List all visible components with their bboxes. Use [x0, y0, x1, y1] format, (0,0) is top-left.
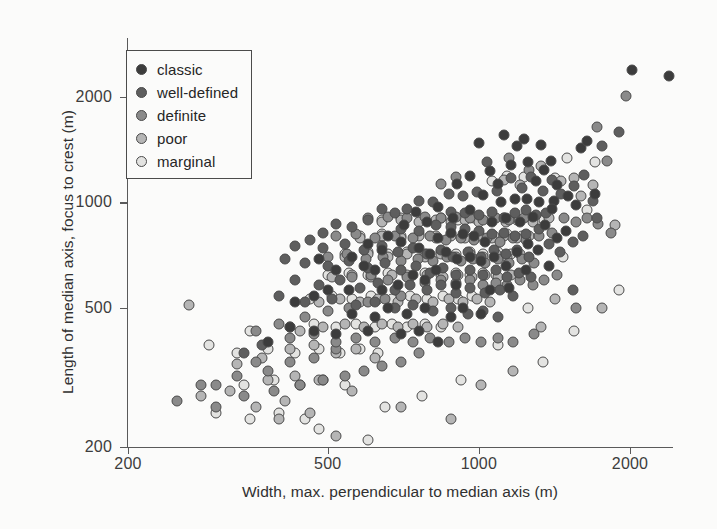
data-point-well-defined — [389, 302, 400, 313]
data-point-definite — [366, 270, 377, 281]
legend-item-definite[interactable]: definite — [127, 104, 251, 127]
data-point-definite — [492, 332, 503, 343]
data-point-definite — [309, 329, 320, 340]
data-point-definite — [502, 280, 513, 291]
data-point-well-defined — [448, 251, 459, 262]
data-point-poor — [486, 233, 497, 244]
data-point-marginal — [419, 267, 430, 278]
legend-item-well-defined[interactable]: well-defined — [127, 81, 251, 104]
data-point-poor — [392, 296, 403, 307]
data-point-classic — [515, 216, 526, 227]
data-point-classic — [464, 170, 475, 181]
data-point-classic — [441, 247, 452, 258]
data-point-well-defined — [362, 215, 373, 226]
data-point-definite — [455, 233, 466, 244]
data-point-well-defined — [613, 126, 624, 137]
legend-box: classicwell-defineddefinitepoormarginal — [126, 50, 252, 179]
data-point-poor — [232, 359, 243, 370]
data-point-poor — [511, 233, 522, 244]
data-point-marginal — [343, 267, 354, 278]
data-point-marginal — [373, 348, 384, 359]
data-point-well-defined — [478, 305, 489, 316]
data-point-poor — [274, 414, 285, 425]
data-point-definite — [262, 365, 273, 376]
data-point-well-defined — [492, 312, 503, 323]
legend-item-classic[interactable]: classic — [127, 58, 251, 81]
data-point-definite — [339, 370, 350, 381]
data-point-well-defined — [335, 275, 346, 286]
data-point-poor — [331, 431, 342, 442]
data-point-poor — [419, 251, 430, 262]
data-point-well-defined — [509, 208, 520, 219]
data-point-marginal — [464, 270, 475, 281]
data-point-definite — [435, 178, 446, 189]
data-point-well-defined — [554, 247, 565, 258]
data-point-marginal — [294, 380, 305, 391]
data-point-poor — [351, 344, 362, 355]
legend-item-marginal[interactable]: marginal — [127, 150, 251, 173]
data-point-poor — [408, 318, 419, 329]
data-point-classic — [527, 211, 538, 222]
data-point-well-defined — [577, 231, 588, 242]
data-point-classic — [469, 231, 480, 242]
data-point-definite — [480, 258, 491, 269]
data-point-definite — [383, 275, 394, 286]
data-point-well-defined — [299, 296, 310, 307]
data-point-poor — [376, 216, 387, 227]
legend-label: definite — [157, 107, 206, 124]
data-point-poor — [471, 293, 482, 304]
legend-item-poor[interactable]: poor — [127, 127, 251, 150]
data-point-well-defined — [411, 260, 422, 271]
data-point-well-defined — [355, 282, 366, 293]
data-point-classic — [347, 308, 358, 319]
data-point-classic — [458, 302, 469, 313]
data-point-definite — [211, 402, 222, 413]
data-point-classic — [570, 200, 581, 211]
data-point-classic — [544, 260, 555, 271]
data-point-definite — [478, 215, 489, 226]
data-point-marginal — [562, 152, 573, 163]
data-point-definite — [442, 251, 453, 262]
data-point-classic — [547, 203, 558, 214]
data-point-classic — [331, 329, 342, 340]
data-point-poor — [478, 251, 489, 262]
data-point-well-defined — [304, 235, 315, 246]
data-point-definite — [347, 272, 358, 283]
data-point-definite — [379, 293, 390, 304]
data-point-marginal — [506, 249, 517, 260]
data-point-definite — [211, 380, 222, 391]
x-tick-label-1000: 1000 — [434, 455, 524, 473]
data-point-poor — [392, 322, 403, 333]
data-point-well-defined — [525, 272, 536, 283]
data-point-marginal — [455, 375, 466, 386]
data-point-well-defined — [318, 227, 329, 238]
data-point-classic — [458, 229, 469, 240]
data-point-classic — [534, 197, 545, 208]
data-point-well-defined — [351, 299, 362, 310]
data-point-marginal — [299, 414, 310, 425]
data-point-definite — [341, 249, 352, 260]
data-point-definite — [476, 336, 487, 347]
data-point-poor — [446, 414, 457, 425]
data-point-well-defined — [462, 308, 473, 319]
data-point-definite — [294, 380, 305, 391]
data-point-classic — [476, 308, 487, 319]
data-point-definite — [251, 325, 262, 336]
data-point-poor — [376, 231, 387, 242]
data-point-poor — [588, 180, 599, 191]
data-point-well-defined — [569, 181, 580, 192]
data-point-marginal — [331, 322, 342, 333]
data-point-definite — [331, 344, 342, 355]
data-point-well-defined — [408, 243, 419, 254]
data-point-definite — [351, 229, 362, 240]
data-point-poor — [184, 299, 195, 310]
data-point-marginal — [419, 249, 430, 260]
data-point-marginal — [386, 318, 397, 329]
data-point-marginal — [492, 340, 503, 351]
data-point-marginal — [405, 291, 416, 302]
data-point-definite — [464, 213, 475, 224]
data-point-classic — [532, 245, 543, 256]
data-point-definite — [559, 213, 570, 224]
data-point-poor — [362, 249, 373, 260]
data-point-definite — [450, 211, 461, 222]
